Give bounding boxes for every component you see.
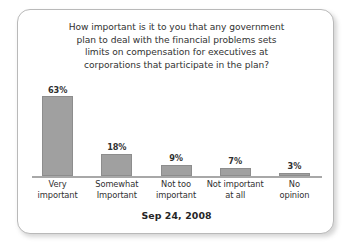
- title-line-3: limits on compensation for executives at: [32, 46, 321, 59]
- category-line: important: [146, 190, 205, 201]
- x-axis-baseline: [32, 176, 322, 178]
- bar-value-label: 63%: [48, 86, 67, 95]
- category-line: Very: [28, 179, 87, 190]
- category-line: important: [28, 190, 87, 201]
- category-line: Not too: [146, 179, 205, 190]
- category-label-not-too-important: Not too important: [146, 179, 205, 201]
- bar-slot-somewhat-important: 18%: [87, 74, 146, 176]
- bar-slot-no-opinion: 3%: [265, 74, 324, 176]
- chart-question-title: How important is it to you that any gove…: [32, 21, 321, 71]
- bar-slot-very-important: 63%: [28, 74, 87, 176]
- bar-value-label: 18%: [107, 143, 126, 152]
- bar-series: 63% 18% 9% 7% 3%: [28, 74, 324, 176]
- bar-slot-not-too-important: 9%: [146, 74, 205, 176]
- title-line-4: corporations that participate in the pla…: [32, 59, 321, 72]
- bar-rect: [161, 165, 192, 176]
- bar-rect: [101, 154, 132, 177]
- bar-rect: [42, 96, 73, 176]
- bar-value-label: 7%: [228, 157, 242, 166]
- poll-result-card: How important is it to you that any gove…: [17, 9, 334, 234]
- category-label-not-important-at-all: Not important at all: [206, 179, 265, 201]
- bar-value-label: 9%: [169, 154, 183, 163]
- category-line: opinion: [265, 190, 324, 201]
- category-label-very-important: Very important: [28, 179, 87, 201]
- category-line: Somewhat: [87, 179, 146, 190]
- screenshot-root: How important is it to you that any gove…: [0, 0, 353, 252]
- category-line: Not important: [206, 179, 265, 190]
- x-axis-category-labels: Very important Somewhat Important Not to…: [28, 179, 324, 201]
- bar-slot-not-important-at-all: 7%: [206, 74, 265, 176]
- category-line: No: [265, 179, 324, 190]
- category-label-no-opinion: No opinion: [265, 179, 324, 201]
- bar-value-label: 3%: [288, 162, 302, 171]
- category-label-somewhat-important: Somewhat Important: [87, 179, 146, 201]
- title-line-2: plan to deal with the financial problems…: [32, 34, 321, 47]
- category-line: Important: [87, 190, 146, 201]
- poll-date-footer: Sep 24, 2008: [32, 210, 321, 221]
- bar-chart-plot-area: 63% 18% 9% 7% 3%: [28, 74, 324, 178]
- title-line-1: How important is it to you that any gove…: [32, 21, 321, 34]
- bar-rect: [220, 168, 251, 177]
- category-line: at all: [206, 190, 265, 201]
